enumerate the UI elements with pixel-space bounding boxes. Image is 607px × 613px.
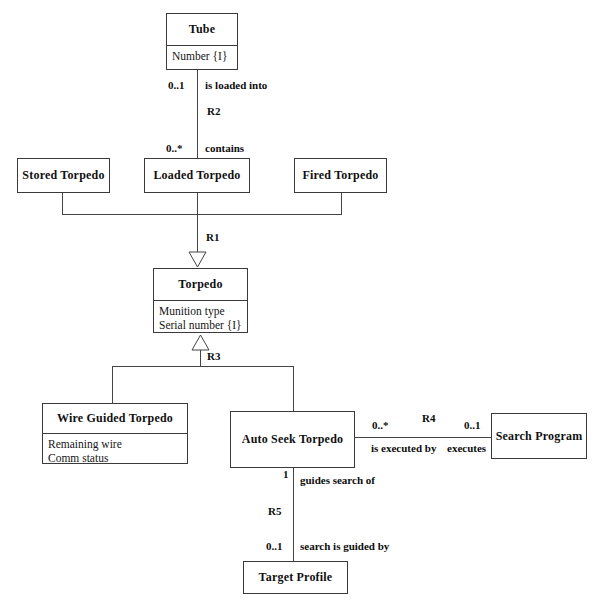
multiplicity-r4-search-program: 0..1 xyxy=(464,419,481,431)
generalization-r3-stem-torpedo xyxy=(200,350,201,367)
class-name-fired-torpedo: Fired Torpedo xyxy=(295,159,386,192)
class-box-torpedo[interactable]: Torpedo Munition type Serial number {I} xyxy=(153,268,248,333)
relationship-label-r2: R2 xyxy=(207,105,220,117)
attribute-row: Serial number {I} xyxy=(159,318,242,332)
multiplicity-r2-tube: 0..1 xyxy=(168,79,185,91)
generalization-r1-stem-loaded xyxy=(197,193,198,215)
attribute-row: Remaining wire xyxy=(48,437,182,451)
generalization-r1-crossbar xyxy=(62,214,342,215)
role-r4-executes: executes xyxy=(447,442,486,454)
association-line-r5 xyxy=(293,468,294,561)
multiplicity-r2-loaded-torpedo: 0..* xyxy=(166,142,183,154)
generalization-r1-stem-fired xyxy=(341,193,342,215)
class-box-fired-torpedo[interactable]: Fired Torpedo xyxy=(294,158,387,193)
attribute-row: Munition type xyxy=(159,304,242,318)
role-r2-is-loaded-into: is loaded into xyxy=(205,79,267,91)
class-box-auto-seek-torpedo[interactable]: Auto Seek Torpedo xyxy=(230,411,355,468)
class-name-search-program: Search Program xyxy=(492,414,586,458)
class-box-stored-torpedo[interactable]: Stored Torpedo xyxy=(17,158,110,193)
class-box-search-program[interactable]: Search Program xyxy=(491,413,587,459)
generalization-r3-crossbar xyxy=(112,366,294,367)
class-name-wire-guided-torpedo: Wire Guided Torpedo xyxy=(43,404,187,433)
class-attributes-tube: Number {I} xyxy=(167,45,237,70)
class-name-tube: Tube xyxy=(167,14,237,45)
generalization-r1-stem-torpedo xyxy=(197,214,198,252)
class-name-auto-seek-torpedo: Auto Seek Torpedo xyxy=(231,412,354,467)
attribute-row: Number {I} xyxy=(172,49,232,63)
generalization-r1-stem-stored xyxy=(62,193,63,215)
class-box-target-profile[interactable]: Target Profile xyxy=(243,561,348,594)
generalization-r3-stem-wire-guided xyxy=(112,366,113,403)
attribute-row: Comm status xyxy=(48,451,182,465)
multiplicity-r5-target-profile: 0..1 xyxy=(266,540,283,552)
class-name-torpedo: Torpedo xyxy=(154,269,247,300)
class-name-target-profile: Target Profile xyxy=(244,562,347,593)
role-r5-search-is-guided-by: search is guided by xyxy=(300,540,389,552)
class-box-loaded-torpedo[interactable]: Loaded Torpedo xyxy=(144,158,250,193)
association-line-r4 xyxy=(355,437,491,438)
relationship-label-r3: R3 xyxy=(207,350,220,362)
role-r5-guides-search-of: guides search of xyxy=(300,474,375,486)
class-name-stored-torpedo: Stored Torpedo xyxy=(18,159,109,192)
class-name-loaded-torpedo: Loaded Torpedo xyxy=(145,159,249,192)
class-attributes-torpedo: Munition type Serial number {I} xyxy=(154,300,247,333)
relationship-label-r1: R1 xyxy=(206,231,219,243)
uml-class-diagram: Tube Number {I} 0..1 is loaded into R2 0… xyxy=(0,0,607,613)
relationship-label-r4: R4 xyxy=(422,412,435,424)
generalization-r3-stem-auto-seek xyxy=(293,366,294,411)
association-line-r2 xyxy=(197,70,198,158)
multiplicity-r5-auto-seek: 1 xyxy=(283,468,289,480)
class-box-tube[interactable]: Tube Number {I} xyxy=(166,13,238,70)
relationship-label-r5: R5 xyxy=(268,505,281,517)
multiplicity-r4-auto-seek: 0..* xyxy=(372,419,389,431)
class-box-wire-guided-torpedo[interactable]: Wire Guided Torpedo Remaining wire Comm … xyxy=(42,403,188,464)
class-attributes-wire-guided-torpedo: Remaining wire Comm status xyxy=(43,433,187,464)
role-r2-contains: contains xyxy=(205,142,244,154)
role-r4-is-executed-by: is executed by xyxy=(371,442,436,454)
